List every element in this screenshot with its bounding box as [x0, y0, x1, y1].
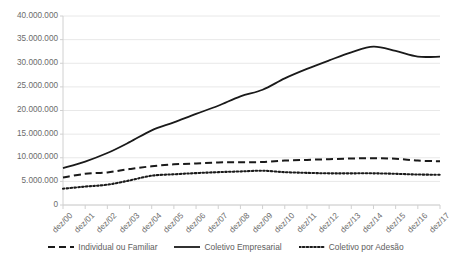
- line-chart: 40.000.00035.000.00030.000.00025.000.000…: [0, 0, 452, 262]
- legend-label: Individual ou Familiar: [78, 242, 157, 252]
- legend-item[interactable]: Individual ou Familiar: [48, 242, 157, 252]
- x-axis-labels: dez/00dez/01dez/02dez/03dez/04dez/05dez/…: [0, 0, 452, 262]
- legend-swatch-dotted: [299, 243, 325, 251]
- legend-swatch-dashed: [48, 243, 74, 251]
- legend-item[interactable]: Coletivo por Adesão: [299, 242, 404, 252]
- legend-swatch-solid: [174, 243, 200, 251]
- chart-legend: Individual ou FamiliarColetivo Empresari…: [0, 239, 452, 255]
- legend-label: Coletivo por Adesão: [329, 242, 404, 252]
- legend-label: Coletivo Empresarial: [204, 242, 281, 252]
- legend-item[interactable]: Coletivo Empresarial: [174, 242, 281, 252]
